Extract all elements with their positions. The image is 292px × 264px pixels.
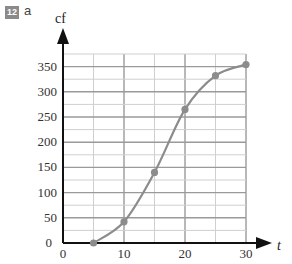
y-tick-label: 250 — [38, 109, 58, 124]
y-tick-label: 350 — [38, 59, 58, 74]
y-tick-label: 200 — [38, 134, 58, 149]
data-points — [90, 61, 250, 247]
axes — [57, 28, 272, 249]
y-tick-label: 50 — [44, 210, 57, 225]
y-tick-label: 150 — [38, 159, 58, 174]
data-point — [242, 61, 249, 68]
data-point — [120, 218, 127, 225]
data-point — [212, 72, 219, 79]
x-tick-label: 30 — [240, 246, 253, 261]
x-tick-label: 0 — [60, 246, 67, 261]
x-axis-label: t — [277, 238, 282, 253]
y-tick-label: 0 — [46, 235, 53, 250]
grid — [63, 54, 246, 243]
y-axis-arrow-icon — [57, 28, 69, 44]
data-point — [90, 239, 97, 246]
x-tick-label: 10 — [118, 246, 131, 261]
x-tick-label: 20 — [179, 246, 192, 261]
data-point — [151, 169, 158, 176]
y-tick-label: 100 — [38, 185, 58, 200]
cumulative-frequency-chart: 0501001502002503003500102030 cf t — [0, 0, 292, 264]
data-point — [181, 106, 188, 113]
x-axis-arrow-icon — [256, 237, 272, 249]
y-tick-label: 300 — [38, 84, 58, 99]
y-axis-label: cf — [55, 11, 66, 26]
